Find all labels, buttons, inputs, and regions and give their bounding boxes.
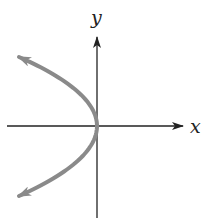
parabola-lower-branch xyxy=(19,126,97,196)
parabola-upper-branch xyxy=(19,57,97,126)
parabola-graph: y x xyxy=(0,0,214,223)
y-axis-label: y xyxy=(90,6,102,28)
x-axis-label: x xyxy=(190,115,201,137)
